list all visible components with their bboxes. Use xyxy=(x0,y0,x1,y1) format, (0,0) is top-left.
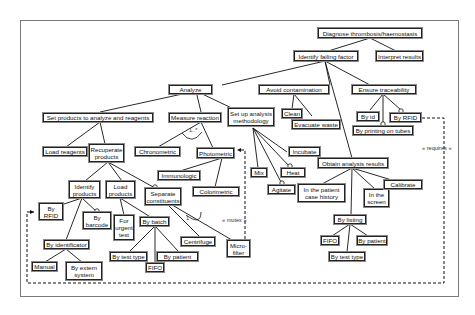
requires-label: « requires » xyxy=(422,145,452,151)
node-interpret-results: Interpret results xyxy=(376,51,423,61)
node-immunologic: Immunologic xyxy=(158,171,200,180)
node-photometric: Photometric xyxy=(197,148,234,158)
node-obtain-results: Obtain analysis results xyxy=(318,158,388,168)
node-for-urgent-test: For urgent test xyxy=(114,215,134,240)
node-by-batch: By batch xyxy=(140,217,169,226)
node-by-barcode: By barcode xyxy=(83,212,111,229)
node-fifo-batch: FIFO xyxy=(146,263,164,272)
node-load-products: Load products xyxy=(106,181,135,198)
node-by-extern-system: By extern system xyxy=(66,262,102,280)
node-patient-case-history: In the patient case history xyxy=(298,184,345,202)
node-manual: Manual xyxy=(32,262,57,271)
node-identify-products: Identify products xyxy=(69,181,100,198)
node-centrifuge: Centrifuge xyxy=(181,237,215,246)
node-heat: Heat xyxy=(281,168,305,177)
node-evacuate-waste: Evacuate waste xyxy=(292,120,340,129)
node-separate-constituents: Separate constituents xyxy=(145,188,181,205)
node-by-test-type-listing: By test type xyxy=(329,252,365,261)
node-by-rfid-top: By RFID xyxy=(390,113,421,122)
node-by-listing: By listing xyxy=(334,215,366,224)
node-avoid-contamination: Avoid contamination xyxy=(259,85,329,94)
node-root: Diagnose thrombosis/haemostasis xyxy=(318,28,422,38)
node-fifo-listing: FIFO xyxy=(321,236,339,245)
node-by-test-type-batch: By test type xyxy=(110,252,147,261)
node-by-patient-listing: By patient xyxy=(357,236,387,245)
node-set-products: Set products to analyze and reagents xyxy=(43,113,153,122)
node-mix: Mix xyxy=(251,168,267,177)
node-calibrate: Calibrate xyxy=(384,180,422,189)
node-set-up-methodology: Set up analysis methodology xyxy=(228,108,274,126)
mutex-label: « mutex » xyxy=(222,217,247,223)
node-identify-failing-factor: Identify failing factor xyxy=(294,51,358,61)
node-clean: Clean xyxy=(282,109,302,118)
node-by-id: By id xyxy=(357,112,379,121)
node-micro-filter: Micro-filter xyxy=(227,240,250,257)
node-incubate: Incubate xyxy=(289,147,320,156)
node-by-printing-on-tubes: By printing on tubes xyxy=(353,126,413,135)
node-by-rfid-left: By RFID xyxy=(39,203,63,220)
node-recuperate-products: Recuperate products xyxy=(89,144,124,162)
node-load-reagents: Load reagents xyxy=(43,147,87,156)
node-agitate: Agitate xyxy=(268,185,295,194)
node-colorimetric: Colorimetric xyxy=(193,187,239,196)
node-by-patient-batch: By patient xyxy=(157,252,198,261)
node-in-the-screen: In the screen xyxy=(364,189,389,207)
node-chronometric: Chronometric xyxy=(135,147,180,156)
node-ensure-traceability: Ensure traceability xyxy=(352,85,416,94)
node-by-identificator: By identificator xyxy=(44,240,89,249)
node-measure-reaction: Measure reaction xyxy=(169,113,221,122)
node-analyze: Analyze xyxy=(169,85,212,94)
cardinality-label: 1..* xyxy=(189,127,197,133)
cardinality-one-label: 1 xyxy=(186,215,189,221)
